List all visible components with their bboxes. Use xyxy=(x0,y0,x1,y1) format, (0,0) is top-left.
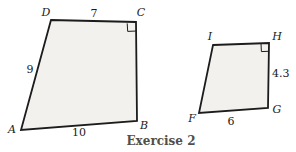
side-label-fg: 6 xyxy=(228,115,235,128)
figure-canvas: D C A B 7 9 10 I H F G 4.3 6 Exercise 2 xyxy=(0,0,296,152)
vertex-label-d: D xyxy=(41,6,51,19)
vertex-label-h: H xyxy=(271,30,282,43)
figure-caption: Exercise 2 xyxy=(126,134,195,148)
geometry-figure: D C A B 7 9 10 I H F G 4.3 6 Exercise 2 xyxy=(0,0,296,152)
vertex-label-g: G xyxy=(273,103,282,116)
quadrilateral-fghi xyxy=(199,43,269,113)
vertex-label-a: A xyxy=(7,123,16,136)
side-label-ab: 10 xyxy=(72,126,86,139)
vertex-label-b: B xyxy=(139,119,148,132)
vertex-label-f: F xyxy=(187,112,196,125)
side-label-hg: 4.3 xyxy=(272,67,290,80)
vertex-label-i: I xyxy=(207,30,213,43)
side-label-dc: 7 xyxy=(91,7,98,20)
quadrilateral-abcd xyxy=(21,20,137,130)
side-label-da: 9 xyxy=(27,63,34,76)
vertex-label-c: C xyxy=(137,6,146,19)
